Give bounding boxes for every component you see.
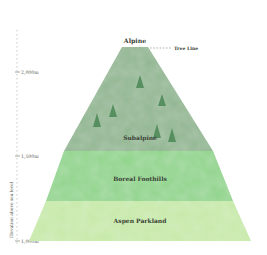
label-alpine: Alpine bbox=[123, 37, 146, 45]
tree-line-marker: Tree Line bbox=[150, 46, 198, 51]
axis-title: Elevation above sea level bbox=[9, 181, 14, 238]
svg-text:Tree Line: Tree Line bbox=[174, 46, 198, 51]
axis-tick-1500: 1,500m bbox=[15, 154, 39, 159]
elevation-diagram: 2,000m 1,500m 1,000m Elevation above sea… bbox=[0, 0, 267, 255]
label-subalpine: Subalpine bbox=[123, 134, 157, 142]
svg-text:1,500m: 1,500m bbox=[21, 154, 39, 159]
label-boreal-foothills: Boreal Foothills bbox=[113, 175, 167, 182]
elevation-axis: 2,000m 1,500m 1,000m Elevation above sea… bbox=[9, 30, 39, 246]
axis-tick-2000: 2,000m bbox=[15, 70, 39, 75]
svg-text:2,000m: 2,000m bbox=[21, 70, 39, 75]
label-aspen-parkland: Aspen Parkland bbox=[113, 217, 168, 225]
